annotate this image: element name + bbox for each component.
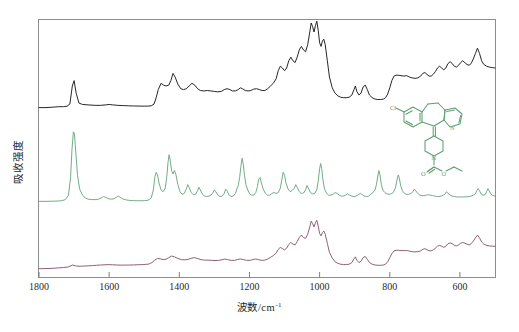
spectrum-bottom (39, 220, 495, 268)
x-tick-label: 1400 (169, 281, 189, 292)
x-axis-tick-labels: 18001600140012001000800600 (0, 281, 519, 297)
atom-label-cl: Cl (390, 104, 396, 111)
y-axis-label-text: 吸收强度 (10, 140, 25, 184)
x-tick-label: 1800 (29, 281, 49, 292)
x-axis-label-text: 波数/cm (237, 302, 275, 313)
atom-label-o-ester: O (442, 170, 447, 177)
y-axis-label: 吸收强度 (10, 12, 25, 112)
atom-label-n-pyridine: N (450, 124, 455, 131)
spectrum-top (39, 21, 495, 107)
x-axis-ticks (39, 272, 460, 277)
x-tick-label: 1000 (310, 281, 330, 292)
atom-label-o-carbonyl: O (421, 170, 426, 177)
spectra-curves (39, 21, 495, 269)
atom-label-n-piperidine: N (432, 154, 437, 161)
figure-container: Cl N N O O 吸收强度 180016001400120010008006… (0, 0, 519, 332)
spectrum-middle (39, 132, 495, 202)
x-tick-label: 800 (382, 281, 397, 292)
loratadine-structure-inset (396, 103, 462, 173)
x-axis-label: 波数/cm-1 (0, 299, 519, 314)
x-tick-label: 1600 (99, 281, 119, 292)
x-axis-label-exponent: -1 (275, 301, 282, 309)
x-tick-label: 1200 (239, 281, 259, 292)
x-tick-label: 600 (452, 281, 467, 292)
